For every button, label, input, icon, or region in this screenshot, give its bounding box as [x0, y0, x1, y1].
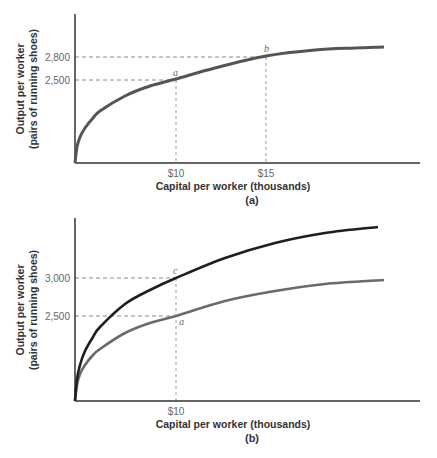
y-axis-title-line1-b: Output per worker [14, 264, 26, 355]
point-label-b: b [264, 43, 269, 54]
panel-caption-a: (a) [245, 194, 259, 206]
point-label-c: c [173, 265, 178, 276]
x-axis-title-a: Capital per worker (thousands) [156, 180, 311, 192]
x-tick-10-b: $10 [168, 406, 185, 417]
shifted-production-function-curve [75, 227, 378, 401]
panel-b: 3,000 2,500 $10 c a Output per worker (p… [14, 218, 420, 444]
original-production-function-curve [75, 280, 384, 401]
y-axis-title-line2: (pairs of running shoes) [27, 29, 39, 149]
y-tick-3000: 3,000 [45, 273, 70, 284]
x-tick-15: $15 [258, 168, 275, 179]
y-tick-2500-b: 2,500 [45, 311, 70, 322]
y-axis-title-line1: Output per worker [14, 43, 26, 134]
y-axis-title-line2-b: (pairs of running shoes) [27, 250, 39, 370]
panel-a: 2,800 2,500 $10 $15 a b Output per worke… [14, 14, 420, 206]
point-label-a: a [173, 67, 178, 78]
x-tick-10: $10 [168, 168, 185, 179]
production-function-curve [75, 47, 384, 163]
chart-figure: 2,800 2,500 $10 $15 a b Output per worke… [0, 0, 437, 458]
x-axis-title-b: Capital per worker (thousands) [156, 418, 311, 430]
y-tick-2500: 2,500 [45, 75, 70, 86]
point-label-a-b: a [179, 316, 184, 327]
y-tick-2800: 2,800 [45, 52, 70, 63]
panel-caption-b: (b) [245, 432, 259, 444]
